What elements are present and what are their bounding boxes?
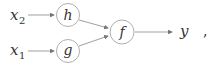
computation-graph-diagram: x 2 x 1 h g f y , — [0, 0, 214, 65]
edge-h-f — [79, 20, 108, 28]
input-x2: x 2 — [10, 6, 25, 26]
node-h: h — [57, 4, 80, 27]
svg-text:2: 2 — [19, 15, 25, 26]
node-f: f — [110, 20, 134, 44]
svg-text:x: x — [10, 6, 19, 24]
svg-text:1: 1 — [19, 50, 25, 61]
output-y: y — [179, 22, 189, 40]
trailing-comma: , — [203, 23, 207, 39]
edge-g-f — [79, 36, 108, 46]
svg-text:x: x — [10, 41, 19, 59]
svg-text:h: h — [63, 7, 72, 23]
svg-text:g: g — [64, 42, 73, 58]
diagram-svg: x 2 x 1 h g f y , — [0, 0, 214, 65]
input-x1: x 1 — [10, 41, 25, 61]
node-g: g — [57, 40, 80, 63]
